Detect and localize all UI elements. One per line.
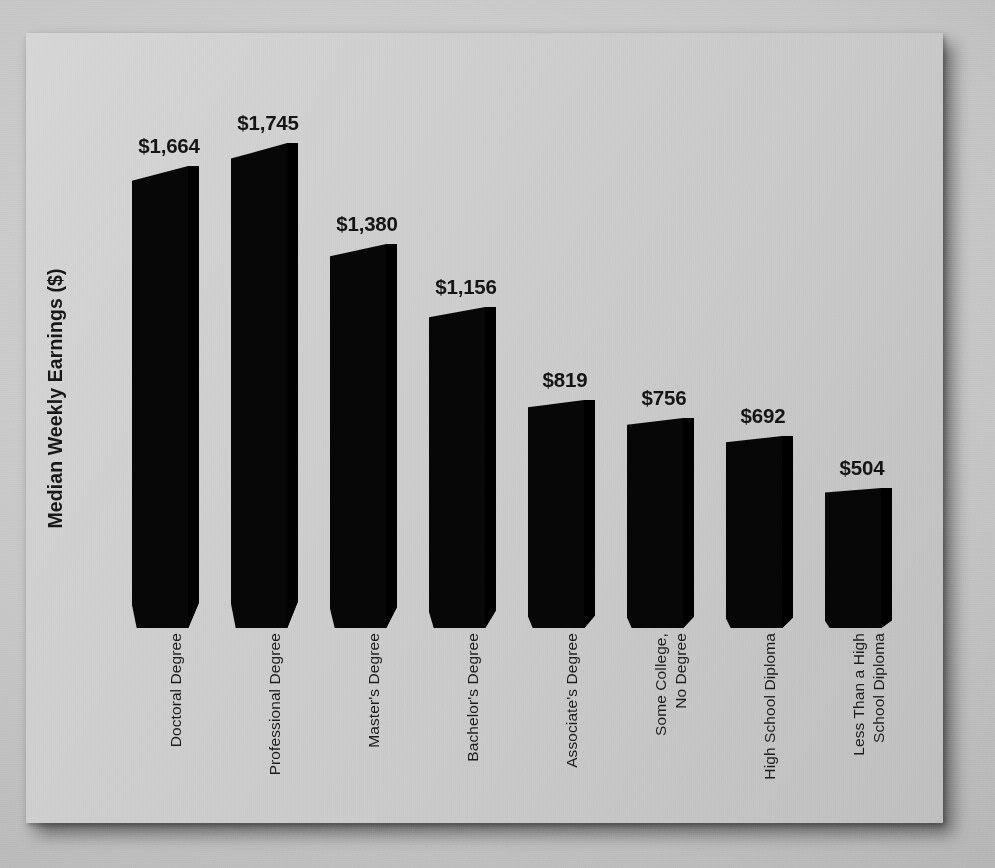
bar-side-face	[287, 143, 298, 628]
x-axis-label-slot: Less Than a HighSchool Diploma	[819, 633, 918, 823]
x-axis-label: Master's Degree	[363, 633, 383, 748]
x-axis-label-slot: Doctoral Degree	[126, 633, 225, 823]
bar-side-face	[485, 307, 496, 628]
bar[interactable]	[429, 307, 496, 628]
x-axis-label-line: Doctoral Degree	[165, 633, 185, 747]
bar-side-face	[584, 400, 595, 628]
x-axis-label: Less Than a HighSchool Diploma	[848, 633, 888, 756]
bar-side-face	[782, 436, 793, 628]
bar[interactable]	[330, 244, 397, 628]
x-axis-label-slot: Some College,No Degree	[621, 633, 720, 823]
bar-value-label: $1,380	[324, 212, 410, 236]
bar-value-label: $1,664	[126, 134, 212, 158]
bar-group: $1,156	[423, 73, 522, 628]
bar-side-face	[683, 418, 694, 628]
x-axis-label: High School Diploma	[759, 633, 779, 780]
x-axis-label-line: Some College,	[650, 633, 670, 736]
x-axis-label-line: Less Than a High	[848, 633, 868, 756]
x-axis-label: Associate's Degree	[561, 633, 581, 768]
x-axis-label-line: High School Diploma	[759, 633, 779, 780]
bar-group: $819	[522, 73, 621, 628]
x-axis-label-line: Associate's Degree	[561, 633, 581, 768]
bar-group: $1,380	[324, 73, 423, 628]
x-axis-label: Doctoral Degree	[165, 633, 185, 747]
bar-side-face	[386, 244, 397, 628]
chart-card: Median Weekly Earnings ($) $1,664$1,745$…	[26, 33, 943, 823]
bar-side-face	[188, 166, 199, 628]
x-axis-label-line: Bachelor's Degree	[462, 633, 482, 762]
plot-area: $1,664$1,745$1,380$1,156$819$756$692$504	[126, 73, 926, 628]
bar-group: $692	[720, 73, 819, 628]
bar-group: $1,745	[225, 73, 324, 628]
bar-value-label: $504	[819, 456, 905, 480]
x-axis-label-slot: Associate's Degree	[522, 633, 621, 823]
bar-group: $756	[621, 73, 720, 628]
x-axis-label-line: Master's Degree	[363, 633, 383, 748]
x-axis-label-line: Professional Degree	[264, 633, 284, 775]
bar-value-label: $1,156	[423, 275, 509, 299]
bar-value-label: $1,745	[225, 111, 311, 135]
x-axis-label-line: No Degree	[671, 633, 691, 736]
x-axis-label-line: School Diploma	[869, 633, 889, 756]
bar[interactable]	[132, 166, 199, 628]
bar[interactable]	[231, 143, 298, 628]
bar-value-label: $692	[720, 404, 806, 428]
x-axis-label: Some College,No Degree	[650, 633, 690, 736]
bar-group: $1,664	[126, 73, 225, 628]
bar[interactable]	[825, 488, 892, 628]
bar-group: $504	[819, 73, 918, 628]
bar-value-label: $756	[621, 386, 707, 410]
x-axis-label: Professional Degree	[264, 633, 284, 775]
x-axis-label-slot: High School Diploma	[720, 633, 819, 823]
x-axis-label-slot: Bachelor's Degree	[423, 633, 522, 823]
bar[interactable]	[528, 400, 595, 628]
x-axis-label-slot: Professional Degree	[225, 633, 324, 823]
bar-value-label: $819	[522, 368, 608, 392]
bar[interactable]	[627, 418, 694, 628]
bar-side-face	[881, 488, 892, 628]
bar[interactable]	[726, 436, 793, 628]
screenshot-backdrop: Median Weekly Earnings ($) $1,664$1,745$…	[0, 0, 995, 868]
x-axis-label-slot: Master's Degree	[324, 633, 423, 823]
x-axis-labels: Doctoral DegreeProfessional DegreeMaster…	[126, 633, 926, 823]
y-axis-title: Median Weekly Earnings ($)	[44, 149, 67, 649]
x-axis-label: Bachelor's Degree	[462, 633, 482, 762]
